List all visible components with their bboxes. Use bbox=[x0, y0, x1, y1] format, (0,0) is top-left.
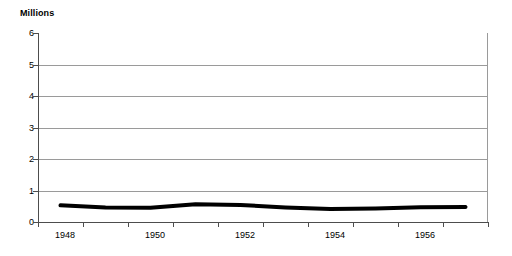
x-tick-mark bbox=[263, 222, 264, 227]
x-tick-label-1954: 1954 bbox=[325, 230, 345, 240]
y-tick-label-5: 5 bbox=[4, 61, 34, 70]
x-tick-label-1950: 1950 bbox=[145, 230, 165, 240]
x-tick-mark bbox=[173, 222, 174, 227]
x-tick-mark bbox=[38, 222, 39, 227]
x-tick-mark bbox=[443, 222, 444, 227]
x-tick-mark bbox=[488, 222, 489, 227]
x-tick-mark bbox=[353, 222, 354, 227]
x-tick-mark bbox=[128, 222, 129, 227]
y-tick-label-1: 1 bbox=[4, 187, 34, 196]
x-tick-label-1956: 1956 bbox=[415, 230, 435, 240]
y-tick-label-4: 4 bbox=[4, 92, 34, 101]
y-tick-label-6: 6 bbox=[4, 29, 34, 38]
x-tick-mark bbox=[308, 222, 309, 227]
y-tick-label-2: 2 bbox=[4, 155, 34, 164]
y-tick-mark-5 bbox=[33, 65, 38, 66]
y-tick-mark-1 bbox=[33, 191, 38, 192]
y-tick-label-3: 3 bbox=[4, 124, 34, 133]
x-tick-mark bbox=[398, 222, 399, 227]
x-tick-label-1952: 1952 bbox=[235, 230, 255, 240]
x-tick-mark bbox=[83, 222, 84, 227]
y-axis-tick-labels: 6 5 4 3 2 1 0 bbox=[0, 0, 34, 256]
y-tick-mark-4 bbox=[33, 96, 38, 97]
line-chart: Millions 6 5 4 3 2 1 0 1948 1950 1952 19… bbox=[0, 0, 512, 256]
series-line bbox=[38, 33, 488, 222]
y-tick-mark-2 bbox=[33, 159, 38, 160]
y-tick-mark-6 bbox=[33, 33, 38, 34]
y-tick-mark-3 bbox=[33, 128, 38, 129]
x-tick-mark bbox=[218, 222, 219, 227]
x-tick-label-1948: 1948 bbox=[55, 230, 75, 240]
y-tick-label-0: 0 bbox=[4, 218, 34, 227]
